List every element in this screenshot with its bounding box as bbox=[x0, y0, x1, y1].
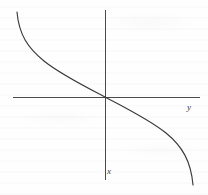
plot-canvas bbox=[0, 0, 208, 195]
axis-label-y: y bbox=[187, 103, 191, 112]
axis-label-x: x bbox=[107, 167, 111, 176]
graph-figure: y x bbox=[0, 0, 208, 195]
